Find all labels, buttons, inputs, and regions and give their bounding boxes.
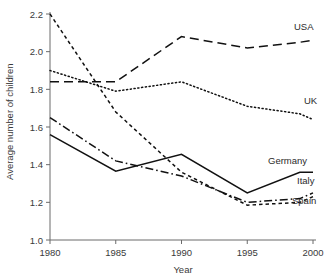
x-tick-label: 2000 — [302, 247, 323, 258]
x-axis-ticks: 19801985199019952000 — [39, 240, 323, 258]
chart-canvas: 1.01.21.41.61.82.02.2 198019851990199520… — [0, 0, 334, 279]
line-chart: 1.01.21.41.61.82.02.2 198019851990199520… — [0, 0, 334, 279]
y-tick-label: 1.8 — [30, 84, 43, 95]
y-tick-label: 2.0 — [30, 46, 43, 57]
series-label-usa: USA — [294, 21, 314, 32]
series-label-italy: Italy — [297, 175, 315, 186]
y-tick-label: 1.2 — [30, 197, 43, 208]
x-tick-label: 1985 — [105, 247, 126, 258]
series-line-uk — [50, 71, 313, 120]
x-tick-label: 1980 — [39, 247, 60, 258]
y-tick-label: 1.6 — [30, 122, 43, 133]
y-tick-label: 2.2 — [30, 9, 43, 20]
x-axis-title: Year — [173, 264, 192, 275]
x-tick-label: 1990 — [171, 247, 192, 258]
x-tick-label: 1995 — [237, 247, 258, 258]
series-label-uk: UK — [304, 95, 318, 106]
y-axis-ticks: 1.01.21.41.61.82.02.2 — [30, 9, 50, 246]
series-label-germany: Germany — [268, 155, 307, 166]
series-label-spain: Spain — [292, 195, 316, 206]
series-lines — [50, 14, 313, 205]
y-axis-title: Average number of children — [4, 63, 15, 180]
y-tick-label: 1.0 — [30, 235, 43, 246]
y-tick-label: 1.4 — [30, 159, 43, 170]
series-line-usa — [50, 37, 313, 82]
